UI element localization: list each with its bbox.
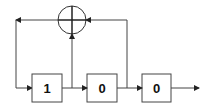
register-2-value: 0: [98, 81, 105, 96]
register-3-value: 0: [153, 81, 160, 96]
register-1-value: 1: [43, 81, 50, 96]
register-3: 0: [142, 74, 171, 102]
lfsr-diagram: 1 0 0: [0, 0, 207, 109]
register-1: 1: [32, 74, 62, 102]
xor-node: [58, 6, 86, 34]
register-2: 0: [87, 74, 117, 102]
